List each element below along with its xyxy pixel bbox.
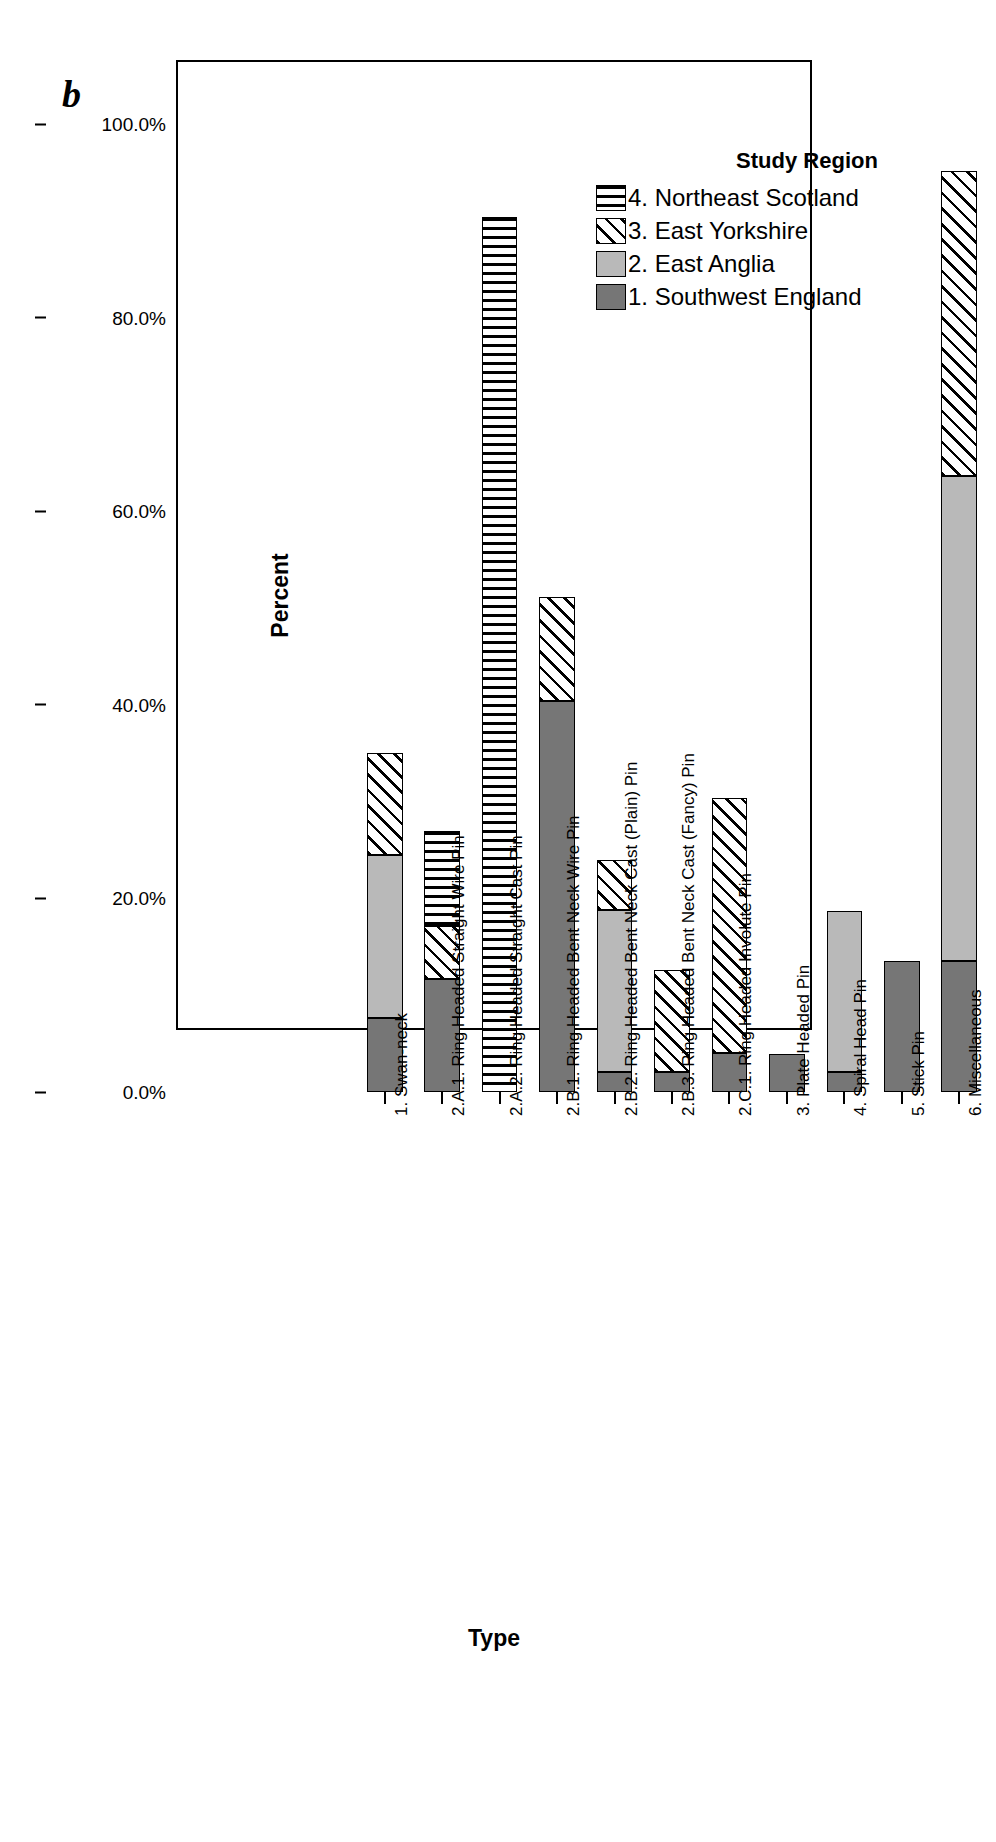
x-axis-tick-mark <box>901 1092 903 1104</box>
bar-stack: 2.A.1. Ring Headed Straight Wire Pin <box>424 124 460 1092</box>
bar-segment <box>367 753 403 855</box>
x-axis-tick-mark <box>958 1092 960 1104</box>
bar-stack: 2.C.1. Ring Headed Involute Pin <box>712 124 748 1092</box>
y-axis-title: Percent <box>267 486 294 706</box>
x-axis-tick-mark <box>441 1092 443 1104</box>
bar-segment <box>941 171 977 476</box>
x-axis-tick-label: 2.A.2. Ring Headed Straight Cast Pin <box>507 835 527 1116</box>
bar-stack: 2.B.3. Ring Headed Bent Neck Cast (Fancy… <box>654 124 690 1092</box>
x-axis-tick-label: 2.C.1. Ring Headed Involute Pin <box>736 873 756 1116</box>
x-axis-title: Type <box>176 1625 812 1652</box>
x-axis-tick-label: 1. Swan-neck <box>392 1013 412 1116</box>
plot-frame: Percent 0.0%20.0%40.0%60.0%80.0%100.0% S… <box>176 60 812 1030</box>
y-axis-tick-label: 20.0% <box>46 889 178 908</box>
bar-segment <box>367 855 403 1019</box>
bar-stack: 2.A.2. Ring Headed Straight Cast Pin <box>482 124 518 1092</box>
bar-segment <box>539 597 575 701</box>
plot-area: 1. Swan-neck2.A.1. Ring Headed Straight … <box>356 124 988 1092</box>
y-axis-tick-label: 40.0% <box>46 695 178 714</box>
x-axis-tick-label: 2.B.1. Ring Headed Bent Neck Wire Pin <box>564 816 584 1116</box>
x-axis-tick-mark <box>499 1092 501 1104</box>
y-axis-tick-label: 0.0% <box>46 1083 178 1102</box>
x-axis-tick-mark <box>671 1092 673 1104</box>
x-axis-tick-label: 5. Stick Pin <box>909 1031 929 1116</box>
x-axis-tick-mark <box>556 1092 558 1104</box>
x-axis-tick-mark <box>843 1092 845 1104</box>
x-axis-tick-mark <box>384 1092 386 1104</box>
bar-stack: 5. Stick Pin <box>884 124 920 1092</box>
bar-stack: 2.B.2. Ring Headed Bent Neck Cast (Plain… <box>597 124 633 1092</box>
x-axis-tick-label: 6. Miscellaneous <box>966 989 986 1116</box>
bar-stack: 4. Spiral Head Pin <box>827 124 863 1092</box>
y-axis-tick-label: 80.0% <box>46 308 178 327</box>
x-axis-tick-mark <box>614 1092 616 1104</box>
bar-stack: 2.B.1. Ring Headed Bent Neck Wire Pin <box>539 124 575 1092</box>
bar-stack: 1. Swan-neck <box>367 124 403 1092</box>
bar-stack: 3. Plate Headed Pin <box>769 124 805 1092</box>
x-axis-tick-mark <box>728 1092 730 1104</box>
y-axis-tick-label: 60.0% <box>46 502 178 521</box>
x-axis-tick-label: 2.B.2. Ring Headed Bent Neck Cast (Plain… <box>622 762 642 1116</box>
y-axis-tick-label: 100.0% <box>46 115 178 134</box>
x-axis-tick-label: 2.B.3. Ring Headed Bent Neck Cast (Fancy… <box>679 753 699 1116</box>
x-axis-tick-label: 4. Spiral Head Pin <box>851 979 871 1116</box>
panel-letter: b <box>62 72 81 116</box>
x-axis-tick-label: 3. Plate Headed Pin <box>794 965 814 1116</box>
bar-stack: 6. Miscellaneous <box>941 124 977 1092</box>
x-axis-tick-mark <box>786 1092 788 1104</box>
figure-bar-chart: b Percent 0.0%20.0%40.0%60.0%80.0%100.0%… <box>0 0 996 1842</box>
x-axis-tick-label: 2.A.1. Ring Headed Straight Wire Pin <box>449 835 469 1116</box>
bar-group: 1. Swan-neck2.A.1. Ring Headed Straight … <box>356 124 988 1092</box>
bar-segment <box>941 476 977 961</box>
